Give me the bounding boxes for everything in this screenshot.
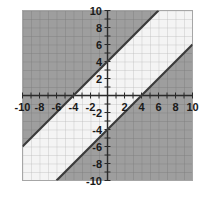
x-tick-label: -6 — [52, 101, 62, 113]
y-tick-label: -8 — [92, 158, 102, 170]
x-tick-label: -10 — [15, 101, 31, 113]
inequality-graph: -10 -8 -6 -4 -2 2 4 6 8 10 10 8 6 4 2 -2… — [0, 0, 208, 201]
x-tick-label: 8 — [172, 101, 178, 113]
y-tick-label: -6 — [92, 141, 102, 153]
y-tick-label: -10 — [86, 175, 102, 187]
y-tick-label: 8 — [96, 22, 102, 34]
y-tick-label: 2 — [96, 73, 102, 85]
x-tick-label: 2 — [121, 101, 127, 113]
y-tick-label: -4 — [92, 124, 103, 136]
y-tick-label: 10 — [90, 5, 102, 17]
x-tick-label: -4 — [69, 101, 80, 113]
coordinate-plane: -10 -8 -6 -4 -2 2 4 6 8 10 10 8 6 4 2 -2… — [0, 0, 208, 201]
x-tick-label: 10 — [186, 101, 198, 113]
x-tick-label: 6 — [155, 101, 161, 113]
y-tick-label: -2 — [92, 107, 102, 119]
y-tick-label: 6 — [96, 39, 102, 51]
x-tick-label: 4 — [138, 101, 145, 113]
y-tick-label: 4 — [96, 56, 103, 68]
x-tick-label: -8 — [35, 101, 45, 113]
